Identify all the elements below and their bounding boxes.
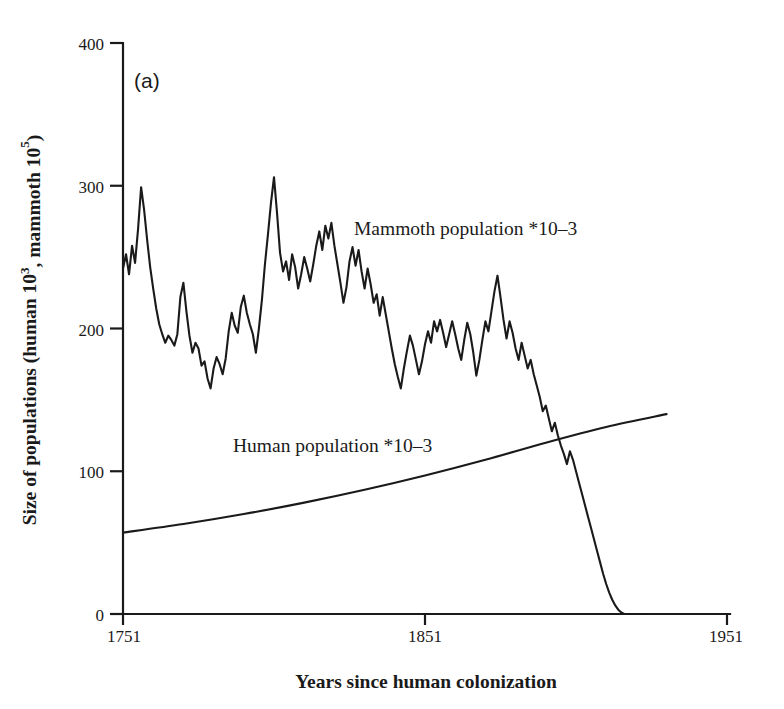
y-tick-label-200: 200 [79, 321, 105, 340]
x-tick-label-1751: 1751 [107, 627, 141, 646]
human-population-line [123, 414, 667, 532]
y-axis-title: Size of populations (human 103, mammoth … [17, 135, 46, 526]
human-series-label: Human population *10–3 [233, 435, 432, 456]
y-axis-title-tail: ) [23, 135, 45, 142]
figure-panel: 400 300 200 100 0 1751 1851 1951 Mammoth… [0, 0, 784, 709]
mammoth-population-line [123, 177, 645, 614]
population-line-chart: 400 300 200 100 0 1751 1851 1951 Mammoth… [0, 0, 784, 709]
panel-label: (a) [134, 69, 160, 92]
y-tick-label-400: 400 [79, 35, 105, 54]
y-tick-label-300: 300 [79, 178, 105, 197]
y-tick-label-100: 100 [79, 463, 105, 482]
y-axis-title-lead: Size of populations (human 10 [19, 274, 41, 525]
mammoth-series-label: Mammoth population *10–3 [354, 218, 577, 239]
x-tick-label-1851: 1851 [408, 627, 442, 646]
y-tick-label-0: 0 [96, 606, 105, 625]
x-tick-label-1951: 1951 [709, 627, 743, 646]
x-axis-title: Years since human colonization [295, 671, 557, 692]
y-axis-title-mid: , mammoth 10 [23, 148, 44, 268]
